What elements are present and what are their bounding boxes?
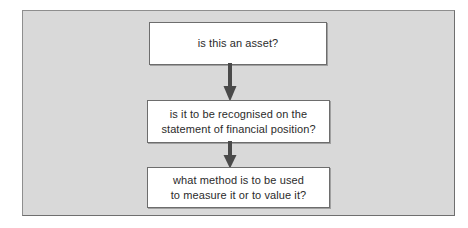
flow-node-label-line: what method is to be used <box>173 173 304 188</box>
down-arrow-icon <box>222 141 238 169</box>
diagram-canvas: is this an asset? is it to be recognised… <box>0 0 468 228</box>
flow-node-label-line: is it to be recognised on the <box>170 107 307 122</box>
flow-node-label-line: to measure it or to value it? <box>171 188 307 203</box>
flow-node-label-line: is this an asset? <box>198 36 279 51</box>
flow-node-is-this-an-asset[interactable]: is this an asset? <box>149 22 327 65</box>
flow-node-what-method-to-measure[interactable]: what method is to be used to measure it … <box>147 167 330 208</box>
diagram-frame: is this an asset? is it to be recognised… <box>22 10 455 216</box>
flow-node-label-line: statement of financial position? <box>161 122 315 137</box>
flow-node-is-it-to-be-recognised[interactable]: is it to be recognised on the statement … <box>147 100 330 143</box>
down-arrow-icon <box>222 63 238 102</box>
